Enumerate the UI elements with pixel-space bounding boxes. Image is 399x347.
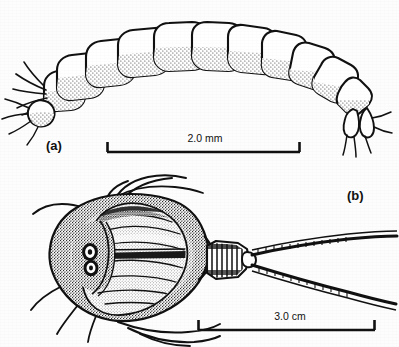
scale-bar-label-b: 3.0 cm [240, 310, 340, 322]
larva-posterior-prolegs [343, 108, 392, 157]
larva-head-capsule [28, 100, 55, 127]
shrimp-abdomen [205, 240, 256, 281]
figure-artwork [0, 0, 399, 347]
larva-body-segments [44, 22, 372, 115]
scale-bar-label-a: 2.0 mm [155, 132, 255, 144]
panel-label-b: (b) [347, 188, 364, 203]
tadpole-shrimp-drawing [31, 175, 397, 346]
panel-label-a: (a) [46, 138, 62, 153]
figure-plate: (a) (b) 2.0 mm 3.0 cm [0, 0, 399, 347]
shrimp-cercopods [252, 231, 397, 310]
